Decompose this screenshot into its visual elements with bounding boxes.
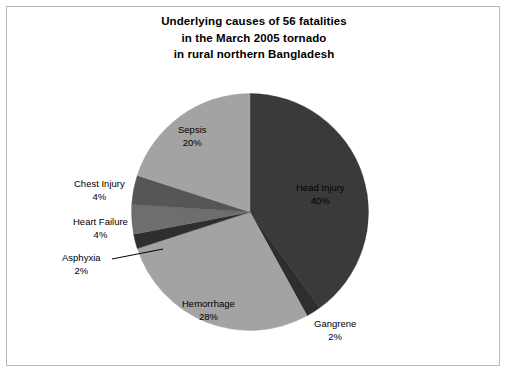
slice-percent-head-injury: 40%: [296, 195, 345, 208]
slice-name-asphyxia: Asphyxia: [62, 252, 101, 265]
slice-label-head-injury: Head Injury 40%: [296, 182, 345, 207]
slice-name-head-injury: Head Injury: [296, 182, 345, 195]
chart-title-line-1: Underlying causes of 56 fatalities: [0, 13, 508, 30]
pie-slices: [131, 94, 368, 331]
chart-title-line-3: in rural northern Bangladesh: [0, 46, 508, 63]
slice-name-heart-failure: Heart Failure: [73, 216, 128, 229]
chart-title-line-2: in the March 2005 tornado: [0, 30, 508, 47]
slice-label-sepsis: Sepsis 20%: [178, 124, 207, 149]
slice-label-asphyxia: Asphyxia 2%: [62, 252, 101, 277]
slice-label-gangrene: Gangrene 2%: [314, 318, 356, 343]
slice-percent-sepsis: 20%: [178, 137, 207, 150]
slice-label-heart-failure: Heart Failure 4%: [73, 216, 128, 241]
slice-percent-asphyxia: 2%: [62, 265, 101, 278]
slice-percent-heart-failure: 4%: [73, 229, 128, 242]
chart-title: Underlying causes of 56 fatalities in th…: [0, 13, 508, 63]
slice-percent-gangrene: 2%: [314, 331, 356, 344]
chart-page: Underlying causes of 56 fatalities in th…: [0, 0, 508, 374]
slice-name-gangrene: Gangrene: [314, 318, 356, 331]
slice-label-hemorrhage: Hemorrhage 28%: [182, 298, 235, 323]
slice-percent-chest-injury: 4%: [74, 191, 125, 204]
slice-percent-hemorrhage: 28%: [182, 311, 235, 324]
slice-name-hemorrhage: Hemorrhage: [182, 298, 235, 311]
pie-chart: [131, 93, 369, 331]
slice-name-sepsis: Sepsis: [178, 124, 207, 137]
slice-label-chest-injury: Chest Injury 4%: [74, 178, 125, 203]
pie-svg: [131, 93, 369, 331]
slice-name-chest-injury: Chest Injury: [74, 178, 125, 191]
